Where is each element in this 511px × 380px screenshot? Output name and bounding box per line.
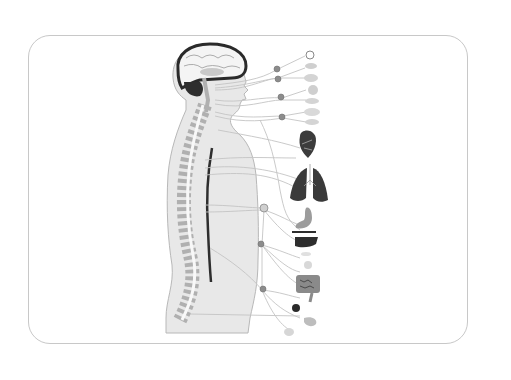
rectum-icon xyxy=(310,293,312,302)
bladder-icon xyxy=(292,304,300,312)
celiac-ganglion xyxy=(260,204,268,212)
otic-ganglion xyxy=(278,94,284,100)
inferior-mesenteric-ganglion xyxy=(260,286,266,292)
liver-icon xyxy=(295,237,318,247)
stomach-icon xyxy=(296,208,312,229)
nervous-system-illustration xyxy=(0,0,511,380)
heart-icon xyxy=(299,130,316,158)
pterygopalatine-ganglion xyxy=(275,76,281,82)
eye-icon xyxy=(306,51,314,59)
gallbladder-icon xyxy=(301,252,311,256)
reproductive-icon xyxy=(284,328,294,336)
kidney-icon xyxy=(304,261,312,269)
lungs-icon xyxy=(290,164,328,202)
sublingual-gland-icon xyxy=(304,108,320,116)
lacrimal-gland-icon xyxy=(305,63,317,69)
body-silhouette xyxy=(166,50,258,333)
superior-mesenteric-ganglion xyxy=(258,241,264,247)
ciliary-ganglion xyxy=(274,66,280,72)
nasal-mucosa-icon xyxy=(304,74,318,82)
submandibular-ganglion xyxy=(279,114,285,120)
salivary-icon xyxy=(305,119,319,125)
pancreas-icon xyxy=(292,231,316,233)
intestines-icon xyxy=(296,275,320,293)
submandibular-gland-icon xyxy=(305,98,319,104)
parotid-gland-icon xyxy=(308,85,318,95)
genitals-icon xyxy=(304,317,316,326)
organs xyxy=(284,51,328,336)
